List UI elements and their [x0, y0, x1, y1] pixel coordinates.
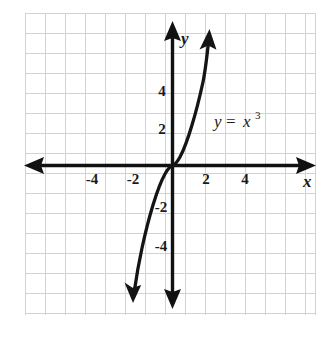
equation-base: x — [242, 112, 251, 131]
y-tick-label-pos4: 4 — [158, 83, 166, 99]
graph-figure: -4 -2 2 4 4 2 -2 -4 y x y = x 3 — [0, 0, 332, 339]
equation-operator: = — [226, 112, 236, 131]
y-tick-label-pos2: 2 — [158, 121, 166, 137]
equation-exponent: 3 — [255, 109, 261, 121]
y-tick-label-neg4: -4 — [155, 238, 168, 254]
x-axis-label: x — [302, 172, 312, 191]
x-tick-label-neg2: -2 — [127, 171, 140, 187]
equation-lhs: y — [212, 112, 222, 131]
y-tick-label-neg2: -2 — [155, 199, 168, 215]
x-tick-label-pos2: 2 — [202, 171, 210, 187]
x-tick-label-neg4: -4 — [86, 171, 99, 187]
x-tick-label-pos4: 4 — [241, 171, 249, 187]
y-axis-label: y — [179, 29, 189, 48]
coordinate-plane-svg: -4 -2 2 4 4 2 -2 -4 y x y = x 3 — [0, 0, 332, 339]
